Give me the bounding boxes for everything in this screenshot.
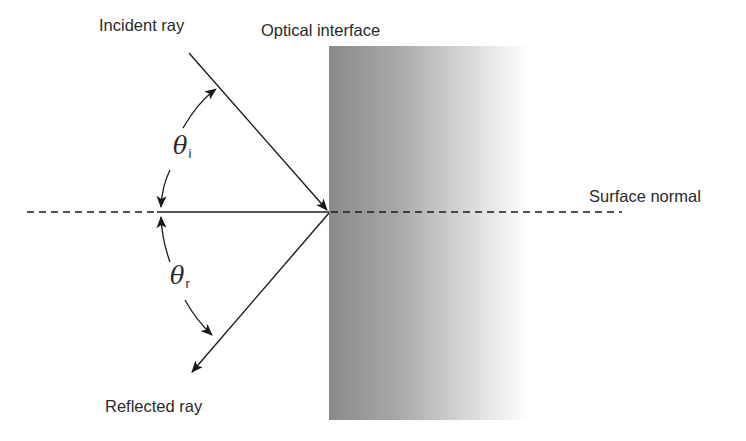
incident-angle-arc-upper	[183, 89, 216, 128]
reflection-diagram: Incident ray Optical interface Surface n…	[0, 0, 746, 441]
surface-normal-label: Surface normal	[589, 188, 701, 205]
incident-ray	[189, 53, 327, 210]
reflected-ray-label: Reflected ray	[105, 398, 202, 415]
reflected-angle-arc-upper	[161, 217, 170, 262]
incident-ray-label: Incident ray	[99, 17, 184, 34]
incident-angle-subscript: i	[188, 146, 191, 161]
optical-interface-label: Optical interface	[261, 22, 380, 39]
reflected-angle-symbol: θr	[170, 264, 190, 290]
reflected-angle-arc-lower	[185, 300, 212, 335]
incident-angle-arc-lower	[161, 170, 170, 207]
incident-angle-symbol: θi	[173, 134, 191, 160]
optical-interface-medium	[329, 46, 529, 420]
reflected-ray	[192, 213, 329, 372]
incident-angle-theta: θ	[173, 132, 187, 160]
reflected-angle-theta: θ	[170, 262, 184, 290]
reflected-angle-subscript: r	[185, 276, 189, 291]
